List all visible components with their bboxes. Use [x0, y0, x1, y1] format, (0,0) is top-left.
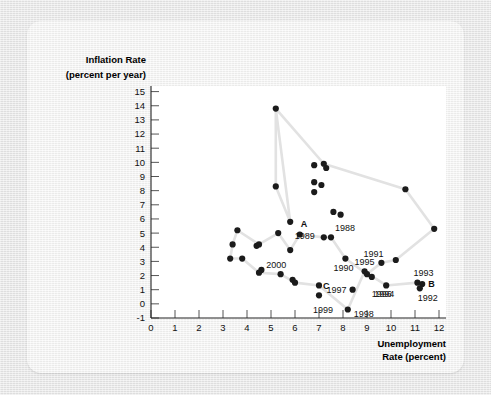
data-point: [417, 285, 423, 291]
data-point: [256, 270, 262, 276]
y-tick-label: 7: [140, 199, 145, 210]
data-point: [369, 274, 375, 280]
data-point: [227, 255, 233, 261]
data-point: [287, 219, 293, 225]
y-tick-label: 8: [140, 185, 145, 196]
data-point: [318, 182, 324, 188]
y-tick-label: 14: [134, 100, 145, 111]
point-label-1989: 1989: [295, 231, 315, 241]
data-point: [383, 282, 389, 288]
data-point: [287, 247, 293, 253]
x-tick-label: 6: [292, 322, 297, 333]
point-label-1997: 1997: [327, 285, 347, 295]
data-point: [323, 165, 329, 171]
x-tick-label: 8: [340, 322, 345, 333]
data-point: [234, 227, 240, 233]
data-point: [278, 271, 284, 277]
x-tick-label: 7: [316, 322, 321, 333]
data-point: [321, 234, 327, 240]
data-point: [273, 105, 279, 111]
phillips-curve-chart: -10123456789101112131415 012345678910111…: [0, 0, 491, 395]
chart-svg: -10123456789101112131415 012345678910111…: [0, 0, 491, 395]
y-tick-label: 15: [134, 86, 145, 97]
data-point: [345, 306, 351, 312]
data-point: [239, 255, 245, 261]
data-point: [378, 260, 384, 266]
point-label-1992: 1992: [418, 293, 438, 303]
x-tick-label: 3: [220, 322, 225, 333]
y-tick-label: 10: [134, 157, 145, 168]
y-tick-label: 2: [140, 270, 145, 281]
point-label-2000: 2000: [266, 260, 286, 270]
data-point: [273, 183, 279, 189]
data-point: [256, 241, 262, 247]
data-point: [350, 287, 356, 293]
y-axis-title-line2: (percent per year): [66, 69, 146, 80]
data-point: [275, 230, 281, 236]
x-tick-label: 11: [410, 322, 420, 333]
point-label-1998: 1998: [354, 309, 374, 319]
point-label-1990: 1990: [333, 263, 353, 273]
x-tick-label: 9: [364, 322, 369, 333]
y-tick-label: -1: [137, 312, 145, 323]
y-tick-label: 5: [140, 228, 145, 239]
y-tick-label: 12: [134, 128, 145, 139]
data-point: [311, 179, 317, 185]
x-axis-title-line2: Rate (percent): [382, 351, 446, 362]
y-tick-label: 3: [140, 256, 145, 267]
data-point: [338, 212, 344, 218]
data-point: [311, 162, 317, 168]
point-label-1993: 1993: [413, 268, 433, 278]
y-tick-label: 1: [140, 284, 145, 295]
y-tick-label: 11: [135, 143, 145, 154]
y-tick-label: 0: [140, 298, 145, 309]
x-tick-label: 5: [268, 322, 273, 333]
y-tick-label: 13: [134, 114, 145, 125]
data-point: [292, 280, 298, 286]
x-tick-label: 2: [196, 322, 201, 333]
y-axis-title-line1: Inflation Rate: [86, 54, 146, 65]
y-tick-label: 6: [140, 213, 145, 224]
x-tick-label: 1: [172, 322, 177, 333]
data-point: [342, 255, 348, 261]
point-label-1988: 1988: [335, 223, 355, 233]
data-point: [330, 209, 336, 215]
data-point: [316, 292, 322, 298]
point-label-1991: 1991: [363, 249, 383, 259]
x-tick-label: 10: [386, 322, 397, 333]
y-tick-label: 4: [140, 242, 145, 253]
x-axis-title-line1: Unemployment: [377, 338, 446, 349]
data-point: [311, 189, 317, 195]
x-tick-label: 0: [148, 322, 153, 333]
x-tick-label: 12: [434, 322, 445, 333]
point-label-A: A: [301, 219, 308, 229]
x-tick-label: 4: [244, 322, 249, 333]
data-point: [393, 257, 399, 263]
data-point: [328, 234, 334, 240]
y-tick-label: 9: [140, 171, 145, 182]
data-point: [316, 282, 322, 288]
point-label-B: B: [428, 279, 435, 289]
point-label-1999: 1999: [313, 305, 333, 315]
point-label-1994: 1994: [374, 289, 394, 299]
data-point: [431, 226, 437, 232]
data-point: [402, 186, 408, 192]
data-point: [230, 241, 236, 247]
